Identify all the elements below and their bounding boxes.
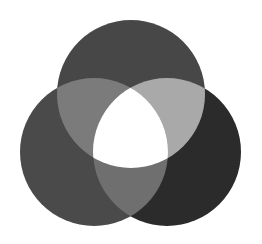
venn-diagram	[0, 0, 262, 244]
venn-diagram-graphic	[0, 0, 262, 244]
